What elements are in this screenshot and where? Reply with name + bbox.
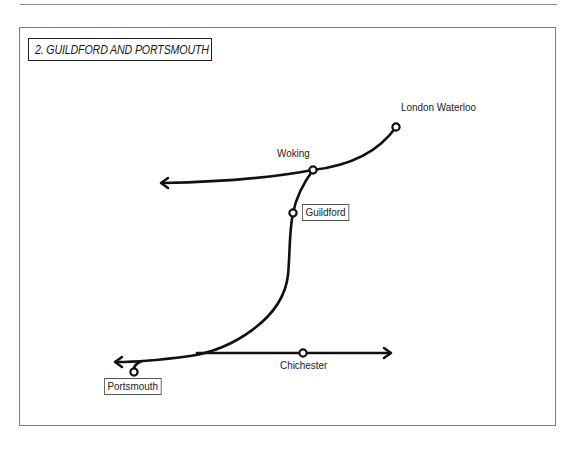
station-marker-guildford-icon xyxy=(289,209,296,216)
station-marker-woking-icon xyxy=(309,166,316,173)
line-woking-guildford-portsmouth xyxy=(117,170,313,362)
station-label-chichester: Chichester xyxy=(280,359,327,371)
route-diagram xyxy=(0,0,582,451)
station-label-portsmouth: Portsmouth xyxy=(104,378,161,395)
station-label-london-waterloo: London Waterloo xyxy=(401,101,476,113)
station-marker-portsmouth-icon xyxy=(130,368,137,375)
station-label-woking: Woking xyxy=(277,147,310,159)
station-marker-chichester-icon xyxy=(299,349,306,356)
station-label-guildford: Guildford xyxy=(302,204,349,221)
station-marker-london-waterloo-icon xyxy=(392,123,399,130)
